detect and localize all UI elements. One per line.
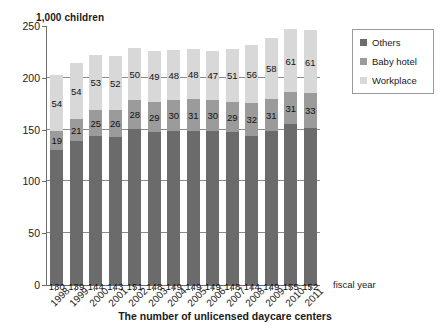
chart-container: 1,000 children 050100150200250 541913054… — [0, 0, 442, 334]
plot-area: 050100150200250 541913054211395325144522… — [46, 27, 320, 286]
bar-segment-workplace[interactable]: 56 — [245, 45, 258, 103]
bar-value-label: 19 — [51, 135, 62, 146]
legend-swatch-icon — [360, 58, 367, 65]
bar-value-label: 48 — [188, 68, 199, 79]
bar-segment-others[interactable]: 148 — [226, 132, 239, 285]
bar-value-label: 33 — [305, 105, 316, 116]
bar-value-label: 30 — [168, 110, 179, 121]
bar-segment-others[interactable]: 130 — [50, 150, 63, 285]
y-tick-label-100: 100 — [22, 175, 40, 187]
bar-segment-workplace[interactable]: 58 — [265, 38, 278, 98]
bar-column[interactable]: 5325144 — [89, 27, 102, 285]
bar-segment-workplace[interactable]: 48 — [187, 49, 200, 99]
y-tick-label-150: 150 — [22, 124, 40, 136]
legend-label: Baby hotel — [372, 56, 417, 67]
bar-segment-baby-hotel[interactable]: 19 — [50, 131, 63, 151]
bar-segment-baby-hotel[interactable]: 26 — [109, 110, 122, 137]
bar-segment-baby-hotel[interactable]: 32 — [245, 103, 258, 136]
bar-value-label: 31 — [188, 109, 199, 120]
bar-segment-others[interactable]: 151 — [128, 129, 141, 285]
bar-value-label: 32 — [246, 114, 257, 125]
bar-segment-workplace[interactable]: 52 — [109, 56, 122, 110]
legend-label: Others — [372, 37, 401, 48]
bar-segment-workplace[interactable]: 50 — [128, 48, 141, 100]
bar-segment-workplace[interactable]: 54 — [70, 63, 83, 119]
bar-segment-baby-hotel[interactable]: 33 — [304, 93, 317, 127]
bar-column[interactable]: 6131155 — [284, 27, 297, 285]
bar-column[interactable]: 4730149 — [206, 27, 219, 285]
legend-item-workplace[interactable]: Workplace — [360, 75, 427, 86]
bar-column[interactable]: 4830149 — [167, 27, 180, 285]
bar-value-label: 26 — [110, 118, 121, 129]
bar-segment-others[interactable]: 149 — [206, 131, 219, 285]
bar-column[interactable]: 5831149 — [265, 27, 278, 285]
bar-value-label: 53 — [90, 77, 101, 88]
chart-y-axis-title: 1,000 children — [36, 12, 104, 23]
bar-segment-others[interactable]: 149 — [167, 131, 180, 285]
bar-segment-workplace[interactable]: 53 — [89, 55, 102, 110]
bar-value-label: 61 — [305, 56, 316, 67]
bar-value-label: 48 — [168, 69, 179, 80]
bar-segment-others[interactable]: 148 — [148, 132, 161, 285]
y-tick-label-250: 250 — [22, 20, 40, 32]
bar-segment-others[interactable]: 144 — [89, 136, 102, 285]
bar-segment-others[interactable]: 144 — [245, 136, 258, 285]
chart-caption: The number of unlicensed daycare centers — [0, 310, 442, 322]
bar-value-label: 61 — [285, 55, 296, 66]
bar-value-label: 29 — [149, 111, 160, 122]
y-tick-label-200: 200 — [22, 72, 40, 84]
bar-segment-baby-hotel[interactable]: 29 — [226, 102, 239, 132]
bar-segment-baby-hotel[interactable]: 31 — [187, 99, 200, 131]
bar-value-label: 56 — [246, 68, 257, 79]
x-tick-label-2011: 2011 — [302, 285, 325, 308]
bar-segment-workplace[interactable]: 51 — [226, 49, 239, 102]
bar-segment-others[interactable]: 149 — [265, 131, 278, 285]
bar-value-label: 31 — [266, 109, 277, 120]
bar-segment-baby-hotel[interactable]: 31 — [265, 99, 278, 131]
bar-segment-workplace[interactable]: 47 — [206, 51, 219, 100]
bar-column[interactable]: 5226143 — [109, 27, 122, 285]
bar-segment-others[interactable]: 149 — [187, 131, 200, 285]
bar-value-label: 54 — [51, 97, 62, 108]
bar-segment-workplace[interactable]: 61 — [284, 29, 297, 92]
y-tick-mark-0 — [42, 285, 47, 286]
legend-swatch-icon — [360, 39, 367, 46]
bar-segment-baby-hotel[interactable]: 30 — [167, 100, 180, 131]
bar-column[interactable]: 5419130 — [50, 27, 63, 285]
bar-segment-others[interactable]: 139 — [70, 141, 83, 285]
legend-swatch-icon — [360, 77, 367, 84]
bar-column[interactable]: 4831149 — [187, 27, 200, 285]
bar-segment-baby-hotel[interactable]: 30 — [206, 100, 219, 131]
bar-segment-others[interactable]: 155 — [284, 124, 297, 285]
bar-segment-baby-hotel[interactable]: 29 — [148, 102, 161, 132]
bar-segment-baby-hotel[interactable]: 31 — [284, 92, 297, 124]
x-axis-title: fiscal year — [333, 279, 376, 290]
bar-segment-baby-hotel[interactable]: 28 — [128, 100, 141, 129]
bar-segment-baby-hotel[interactable]: 25 — [89, 110, 102, 136]
legend-item-baby-hotel[interactable]: Baby hotel — [360, 56, 427, 67]
bar-column[interactable]: 5632144 — [245, 27, 258, 285]
bar-segment-workplace[interactable]: 54 — [50, 75, 63, 131]
bar-value-label: 51 — [227, 70, 238, 81]
bar-value-label: 49 — [149, 71, 160, 82]
gridline-250: 250 — [47, 25, 320, 26]
bar-segment-others[interactable]: 152 — [304, 128, 317, 285]
bar-segment-workplace[interactable]: 61 — [304, 30, 317, 93]
bar-value-label: 58 — [266, 63, 277, 74]
bar-column[interactable]: 4929148 — [148, 27, 161, 285]
bar-column[interactable]: 5028151 — [128, 27, 141, 285]
bar-segment-others[interactable]: 143 — [109, 137, 122, 285]
bar-value-label: 25 — [90, 117, 101, 128]
legend-item-others[interactable]: Others — [360, 37, 427, 48]
bar-value-label: 21 — [71, 125, 82, 136]
bar-column[interactable]: 5129148 — [226, 27, 239, 285]
y-tick-label-50: 50 — [28, 227, 40, 239]
bar-segment-baby-hotel[interactable]: 21 — [70, 119, 83, 141]
bar-segment-workplace[interactable]: 49 — [148, 51, 161, 102]
legend-label: Workplace — [372, 75, 417, 86]
bar-segment-workplace[interactable]: 48 — [167, 50, 180, 100]
bar-value-label: 47 — [207, 70, 218, 81]
bar-value-label: 29 — [227, 111, 238, 122]
bar-column[interactable]: 5421139 — [70, 27, 83, 285]
bar-column[interactable]: 6133152 — [304, 27, 317, 285]
